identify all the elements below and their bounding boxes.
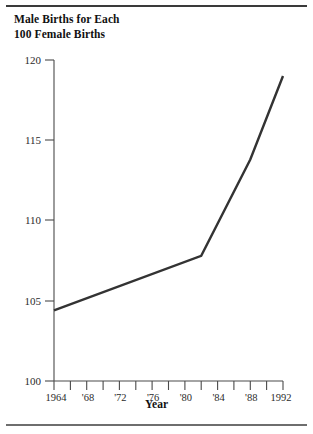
- chart-page: Male Births for Each 100 Female Births 1…: [0, 0, 313, 434]
- y-axis-group: 120 115 110 105 100: [25, 54, 55, 387]
- data-series-line: [54, 76, 283, 310]
- y-tick-label-120: 120: [25, 54, 42, 66]
- y-tick-label-115: 115: [25, 134, 42, 146]
- y-tick-label-110: 110: [25, 214, 42, 226]
- y-tick-label-100: 100: [25, 375, 42, 387]
- x-axis-title: Year: [0, 398, 313, 410]
- line-chart-plot: 120 115 110 105 100 1964 '68 '72: [0, 0, 313, 434]
- y-tick-label-105: 105: [25, 295, 42, 307]
- bottom-divider-rule: [6, 424, 307, 426]
